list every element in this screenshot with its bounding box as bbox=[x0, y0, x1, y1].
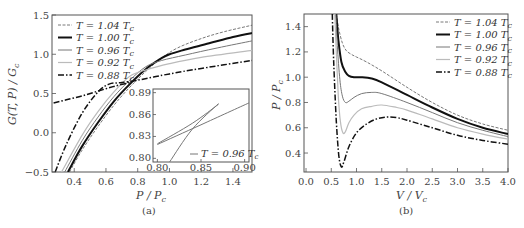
y-tick-label: 0.0 bbox=[33, 127, 49, 138]
y-tick-label: 1.0 bbox=[285, 72, 301, 83]
plot-b-y-ticks: 0.40.60.81.01.21.4 bbox=[285, 21, 308, 158]
y-tick-label: 0.4 bbox=[285, 148, 301, 159]
x-tick-label: 1.0 bbox=[162, 176, 178, 187]
plot-a-ylabel: G(T, P) / Gc bbox=[6, 63, 21, 125]
legend-label: T = 0.88 Tc bbox=[454, 67, 513, 81]
y-tick-label: 1.0 bbox=[33, 49, 49, 60]
x-tick-label: 0.6 bbox=[98, 176, 114, 187]
x-tick-label: 1.4 bbox=[225, 176, 241, 187]
x-tick-label: 1.5 bbox=[374, 176, 390, 187]
y-tick-label: 1.4 bbox=[285, 21, 301, 32]
x-tick-label: 3.0 bbox=[450, 176, 466, 187]
x-tick-label: 2.0 bbox=[399, 176, 415, 187]
plot-a-legend: T = 1.04 TcT = 1.00 TcT = 0.96 TcT = 0.9… bbox=[58, 20, 135, 84]
inset-x-tick-label: 0.85 bbox=[190, 162, 212, 173]
x-tick-label: 1.2 bbox=[193, 176, 209, 187]
plot-b-x-ticks: 0.00.51.01.52.02.53.03.54.0 bbox=[298, 168, 516, 187]
legend-label: T = 0.96 Tc bbox=[454, 42, 513, 56]
x-tick-label: 0.0 bbox=[298, 176, 314, 187]
plot-b-ylabel: P / Pc bbox=[270, 79, 285, 111]
x-tick-label: 0.5 bbox=[323, 176, 339, 187]
legend-label: T = 0.96 Tc bbox=[76, 45, 135, 59]
x-tick-label: 1.0 bbox=[349, 176, 365, 187]
legend-label: T = 0.92 Tc bbox=[454, 54, 513, 68]
plot-a-y-ticks: −0.50.00.51.01.5 bbox=[25, 10, 56, 178]
legend-label: T = 1.04 Tc bbox=[454, 17, 513, 31]
x-tick-label: 3.5 bbox=[475, 176, 491, 187]
inset-y-tick-label: 0.89 bbox=[129, 87, 151, 98]
plot-a-inset: 0.800.830.860.890.800.850.90 T = 0.96 Tc bbox=[129, 87, 259, 173]
x-tick-label: 2.5 bbox=[424, 176, 440, 187]
x-tick-label: 4.0 bbox=[500, 176, 516, 187]
plot-b-xlabel: V / Vc bbox=[396, 189, 428, 204]
legend-label: T = 1.04 Tc bbox=[76, 20, 135, 34]
y-tick-label: 1.5 bbox=[33, 10, 49, 21]
plot-b-caption: (b) bbox=[399, 205, 413, 216]
panel-b: 0.40.60.81.01.21.4 0.00.51.01.52.02.53.0… bbox=[270, 14, 516, 216]
legend-label: T = 0.88 Tc bbox=[76, 70, 135, 84]
x-tick-label: 0.8 bbox=[130, 176, 146, 187]
inset-x-tick-label: 0.80 bbox=[146, 162, 168, 173]
panel-a: −0.50.00.51.01.5 0.40.60.81.01.21.4 G(T,… bbox=[6, 10, 259, 217]
figure: −0.50.00.51.01.5 0.40.60.81.01.21.4 G(T,… bbox=[0, 0, 524, 228]
y-tick-label: 0.6 bbox=[285, 122, 301, 133]
legend-label: T = 1.00 Tc bbox=[76, 32, 135, 46]
inset-x-tick-label: 0.90 bbox=[234, 162, 256, 173]
plot-a-xlabel: P / Pc bbox=[135, 189, 167, 204]
plot-a-caption: (a) bbox=[142, 205, 156, 216]
inset-y-tick-label: 0.86 bbox=[129, 109, 151, 120]
x-tick-label: 0.4 bbox=[66, 176, 82, 187]
y-tick-label: 1.2 bbox=[285, 46, 301, 57]
y-tick-label: 0.5 bbox=[33, 88, 49, 99]
plot-b-legend: T = 1.04 TcT = 1.00 TcT = 0.96 TcT = 0.9… bbox=[436, 17, 513, 81]
y-tick-label: 0.8 bbox=[285, 97, 301, 108]
legend-label: T = 0.92 Tc bbox=[76, 57, 135, 71]
inset-y-tick-label: 0.83 bbox=[129, 130, 151, 141]
legend-label: T = 1.00 Tc bbox=[454, 29, 513, 43]
y-tick-label: −0.5 bbox=[25, 167, 49, 178]
